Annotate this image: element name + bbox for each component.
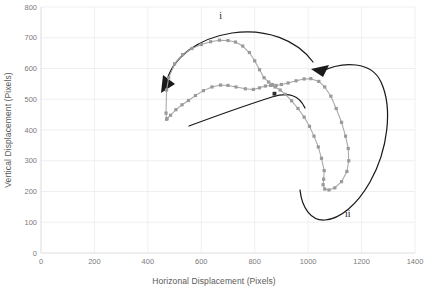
- data-point-marker: [190, 47, 193, 50]
- data-point-marker: [187, 99, 190, 102]
- data-point-marker: [312, 135, 315, 138]
- data-point-marker: [165, 88, 168, 91]
- x-tick-label: 400: [142, 257, 155, 266]
- data-point-marker: [167, 76, 170, 79]
- data-point-marker: [264, 84, 267, 87]
- data-point-marker: [345, 170, 348, 173]
- data-point-marker: [296, 107, 299, 110]
- y-tick-label: 200: [24, 187, 37, 196]
- y-tick-label: 400: [24, 126, 37, 135]
- x-axis-title: Horizonal Displacement (Pixels): [152, 276, 276, 286]
- data-point-marker: [226, 39, 229, 42]
- data-point-marker: [344, 135, 347, 138]
- data-point-marker: [262, 76, 265, 79]
- x-tick-label: 1000: [300, 257, 317, 266]
- annotation-label-ii: ii: [345, 208, 351, 219]
- x-tick-label: 0: [39, 257, 43, 266]
- data-point-marker: [320, 157, 323, 160]
- data-point-marker: [248, 51, 251, 54]
- data-point-marker: [273, 85, 276, 88]
- data-point-marker: [323, 85, 326, 88]
- data-point-marker: [317, 145, 320, 148]
- data-point-marker: [280, 83, 283, 86]
- data-point-marker: [164, 111, 167, 114]
- data-point-marker: [287, 81, 290, 84]
- data-point-marker: [165, 117, 168, 120]
- y-tick-label: 800: [24, 3, 37, 12]
- y-axis-title: Vertical Displacement (Pixels): [3, 72, 13, 187]
- data-point-marker: [322, 178, 325, 181]
- data-point-marker: [308, 125, 311, 128]
- data-point-marker: [210, 85, 213, 88]
- y-tick-label: 600: [24, 64, 37, 73]
- data-point-marker: [241, 44, 244, 47]
- data-point-marker: [181, 53, 184, 56]
- data-point-marker: [303, 115, 306, 118]
- data-point-marker: [258, 68, 261, 71]
- data-point-marker: [327, 188, 330, 191]
- data-point-marker: [323, 187, 326, 190]
- data-point-marker: [329, 95, 332, 98]
- data-point-marker: [340, 180, 343, 183]
- chart-background: [0, 0, 429, 293]
- y-tick-label: 500: [24, 95, 37, 104]
- annotation-label-i: i: [219, 10, 222, 21]
- data-point-marker: [234, 40, 237, 43]
- data-point-marker: [226, 84, 229, 87]
- data-point-marker: [209, 40, 212, 43]
- data-point-marker: [347, 147, 350, 150]
- x-tick-label: 1400: [407, 257, 424, 266]
- data-point-marker: [234, 85, 237, 88]
- data-point-marker: [284, 93, 287, 96]
- data-point-marker: [333, 186, 336, 189]
- data-point-marker: [253, 59, 256, 62]
- data-point-marker: [290, 99, 293, 102]
- data-point-marker: [173, 62, 176, 65]
- data-point-marker: [169, 114, 172, 117]
- data-point-marker: [303, 77, 306, 80]
- data-point-marker: [218, 39, 221, 42]
- data-point-marker: [202, 89, 205, 92]
- data-point-marker: [335, 107, 338, 110]
- data-point-marker: [278, 88, 281, 91]
- data-point-marker: [323, 169, 326, 172]
- x-tick-label: 800: [248, 257, 261, 266]
- y-tick-label: 700: [24, 33, 37, 42]
- data-point-marker: [200, 43, 203, 46]
- y-tick-label: 0: [33, 249, 37, 258]
- data-point-marker: [174, 108, 177, 111]
- data-point-marker: [194, 94, 197, 97]
- data-point-marker: [244, 87, 247, 90]
- y-tick-label: 100: [24, 218, 37, 227]
- y-axis-tick-labels: 0100200300400500600700800: [24, 3, 37, 258]
- data-point-marker: [347, 159, 350, 162]
- x-tick-label: 1200: [353, 257, 370, 266]
- data-point-marker: [180, 103, 183, 106]
- data-point-marker: [317, 80, 320, 83]
- y-tick-label: 300: [24, 156, 37, 165]
- data-point-marker: [258, 86, 261, 89]
- chart-container: 0200400600800100012001400 01002003004005…: [0, 0, 429, 293]
- data-point-marker: [269, 84, 272, 87]
- data-point-marker: [252, 88, 255, 91]
- center-marker: [273, 92, 277, 96]
- x-tick-label: 200: [88, 257, 101, 266]
- data-point-marker: [295, 79, 298, 82]
- data-point-marker: [322, 183, 325, 186]
- data-point-marker: [267, 80, 270, 83]
- data-point-marker: [309, 77, 312, 80]
- data-point-marker: [340, 121, 343, 124]
- extra-points: [273, 92, 277, 96]
- x-tick-label: 600: [195, 257, 208, 266]
- data-point-marker: [219, 84, 222, 87]
- displacement-trajectory-chart: 0200400600800100012001400 01002003004005…: [0, 0, 429, 293]
